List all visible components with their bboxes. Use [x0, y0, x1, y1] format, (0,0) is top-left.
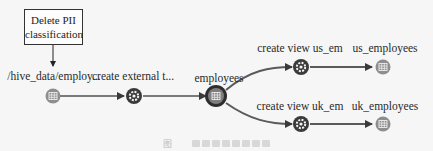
node-label-us-employees: us_employees: [352, 42, 417, 55]
classification-line-1: Delete PII: [25, 13, 82, 27]
node-employees-selected[interactable]: [205, 85, 227, 107]
node-label-employees: employees: [194, 72, 243, 85]
caption-prefix: 图: [163, 137, 172, 150]
node-process-create-external[interactable]: [126, 88, 142, 104]
lineage-diagram: Delete PII classification /hive_data/emp…: [0, 0, 433, 151]
node-uk-employees[interactable]: [376, 117, 391, 132]
classification-line-2: classification: [25, 27, 82, 41]
node-label-process-us: create view us_em: [257, 42, 343, 55]
node-label-process1: create external t...: [92, 70, 174, 83]
node-us-employees[interactable]: [376, 60, 391, 75]
node-label-process-uk: create view uk_em: [257, 100, 344, 113]
node-process-create-view-us[interactable]: [293, 59, 309, 75]
node-label-source: /hive_data/employ...: [7, 70, 100, 83]
classification-annotation: Delete PII classification: [24, 9, 83, 45]
figure-caption: 图: [0, 137, 433, 149]
node-label-uk-employees: uk_employees: [352, 100, 418, 113]
node-source-dataset[interactable]: [46, 89, 61, 104]
node-process-create-view-uk[interactable]: [293, 116, 309, 132]
